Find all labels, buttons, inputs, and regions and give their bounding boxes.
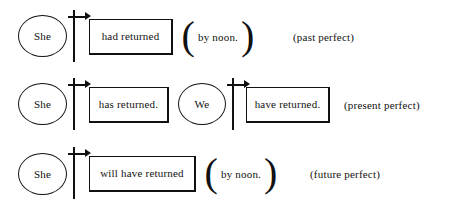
marker-stem [73,147,75,199]
diagram-row-future-perfect: She will have returned ( by noon. ) (fut… [0,138,451,205]
verb-phrase-label: will have returned [100,168,184,179]
adverbial-phrase-group: ( by noon. ) [204,155,278,193]
adverbial-phrase-label: by noon. [218,169,264,180]
adverbial-phrase-label: by noon. [195,32,241,43]
tense-name-label: (present perfect) [344,100,420,111]
verb-phrase-box-secondary: have returned. [246,87,330,123]
verb-phrase-label: have returned. [255,99,321,110]
subject-circle: She [18,153,67,195]
marker-stem [73,78,75,130]
verb-phrase-box: has returned. [89,87,169,123]
marker-stem [73,10,75,62]
adverbial-phrase-group: ( by noon. ) [181,18,255,56]
subject-label: We [195,99,210,110]
marker-stem [232,78,234,130]
diagram-row-past-perfect: She had returned ( by noon. ) (past perf… [0,0,451,68]
verb-phrase-box: had returned [89,19,173,55]
subject-label: She [34,169,51,180]
verb-phrase-label: had returned [102,31,160,42]
verb-phrase-label: has returned. [99,99,158,110]
subject-label: She [34,31,51,42]
subject-circle: She [18,15,67,57]
subject-circle: She [18,83,67,125]
verb-phrase-box: will have returned [89,156,196,192]
tense-name-label: (past perfect) [293,32,354,43]
subject-circle-secondary: We [178,83,226,125]
tense-diagram: She had returned ( by noon. ) (past perf… [0,0,451,205]
tense-name-label: (future perfect) [310,169,380,180]
diagram-row-present-perfect: She has returned. We have returned. (pre… [0,69,451,137]
subject-label: She [34,99,51,110]
